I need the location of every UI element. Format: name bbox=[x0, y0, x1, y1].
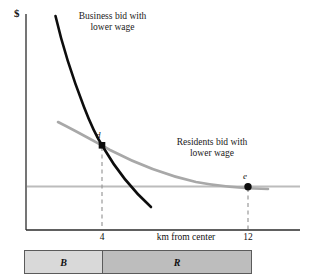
land-use-segment-business: B bbox=[25, 251, 103, 273]
land-use-segment-residential: R bbox=[103, 251, 251, 273]
point-d-marker bbox=[99, 142, 106, 149]
x-axis-label: km from center bbox=[140, 232, 232, 243]
business-curve-label: Business bid with lower wage bbox=[60, 11, 165, 33]
x-tick-label-4: 4 bbox=[91, 232, 113, 243]
x-tick-label-12: 12 bbox=[237, 232, 259, 243]
bid-rent-diagram: $ Business bid with lower wage Residents… bbox=[0, 0, 315, 280]
residents-curve-label: Residents bid with lower wage bbox=[158, 137, 266, 159]
point-e-marker bbox=[244, 183, 251, 190]
y-axis-label: $ bbox=[14, 7, 20, 20]
point-e-label: e bbox=[243, 171, 247, 182]
land-use-band: B R bbox=[24, 250, 252, 274]
business-bid-curve bbox=[56, 16, 152, 207]
point-d-label: d bbox=[96, 130, 101, 141]
